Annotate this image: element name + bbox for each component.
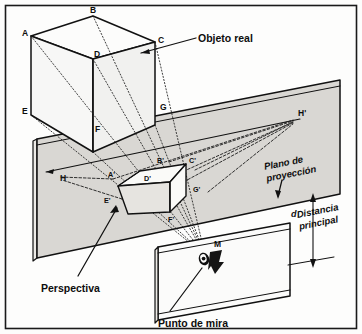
vertex-label-A: A xyxy=(22,28,28,38)
objeto-real-label: Objeto real xyxy=(198,32,253,44)
projected-cube-left-face xyxy=(118,182,170,214)
punto-de-mira-label: Punto de mira xyxy=(158,317,228,329)
figure-canvas: A B C D E F G H H' xyxy=(0,0,362,334)
vertex-label-F-prime: F' xyxy=(168,215,174,224)
eye-pupil xyxy=(202,257,206,261)
vertex-label-F: F xyxy=(95,124,100,134)
vertex-label-G-prime: G' xyxy=(193,185,201,194)
vertex-label-E: E xyxy=(22,106,28,116)
vertex-label-A-prime: A' xyxy=(108,170,115,179)
viewpoint-label-M: M xyxy=(214,239,221,249)
vertex-label-B: B xyxy=(90,5,96,15)
vertex-label-D-prime: D' xyxy=(144,174,151,183)
vertex-label-G: G xyxy=(160,102,167,112)
vertex-label-C: C xyxy=(158,35,164,45)
perspectiva-label: Perspectiva xyxy=(41,282,100,294)
perspective-projection-figure: A B C D E F G H H' xyxy=(0,0,362,334)
horizon-label-H-prime: H' xyxy=(298,108,306,118)
vertex-label-B-prime: B' xyxy=(157,156,164,165)
vertex-label-C-prime: C' xyxy=(189,156,196,165)
horizon-label-H: H xyxy=(60,173,66,183)
viewpoint-panel-thickness xyxy=(155,247,158,323)
vertex-label-D: D xyxy=(94,49,100,59)
vertex-label-E-prime: E' xyxy=(104,196,111,205)
